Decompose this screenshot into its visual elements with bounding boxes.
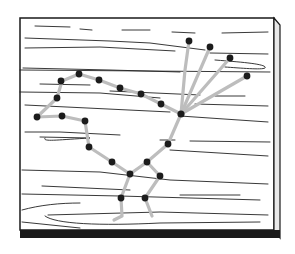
nail bbox=[34, 114, 41, 121]
nail bbox=[58, 78, 65, 85]
nail bbox=[76, 71, 83, 78]
nail bbox=[177, 110, 184, 117]
nail bbox=[109, 159, 116, 166]
nail bbox=[186, 38, 193, 45]
nail bbox=[117, 85, 124, 92]
nail bbox=[158, 101, 165, 108]
nail bbox=[127, 171, 134, 178]
nail bbox=[227, 55, 234, 62]
wood-board bbox=[20, 18, 280, 238]
nail bbox=[138, 91, 145, 98]
nail bbox=[142, 195, 149, 202]
nail bbox=[207, 44, 214, 51]
board-side-edge bbox=[274, 18, 280, 238]
nail bbox=[118, 195, 125, 202]
nail bbox=[82, 118, 89, 125]
nail bbox=[59, 113, 66, 120]
string-art-illustration bbox=[0, 0, 295, 254]
nail bbox=[86, 144, 93, 151]
nail bbox=[54, 95, 61, 102]
nail bbox=[96, 77, 103, 84]
nail bbox=[165, 141, 172, 148]
nail bbox=[144, 159, 151, 166]
nail bbox=[244, 73, 251, 80]
board-bottom-edge bbox=[20, 230, 280, 238]
nail bbox=[157, 173, 164, 180]
